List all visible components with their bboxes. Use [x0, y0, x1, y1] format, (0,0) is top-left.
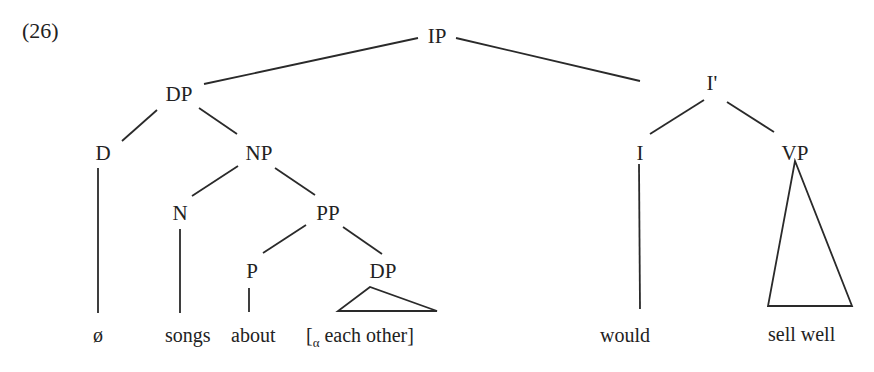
- node-ip: IP: [428, 24, 447, 48]
- node-p: P: [246, 259, 258, 283]
- node-pp: PP: [316, 201, 339, 225]
- node-vp: VP: [782, 141, 809, 165]
- node-i-bar: I': [707, 71, 718, 95]
- branch-pp-p: [263, 225, 306, 253]
- terminal-each-other: [α each other]: [306, 323, 414, 355]
- node-dp-object: DP: [370, 259, 397, 283]
- tree-branches: [0, 0, 874, 372]
- terminal-sell-well: sell well: [768, 322, 835, 346]
- branch-np-n: [192, 166, 238, 196]
- branch-ibar-vp: [727, 102, 774, 132]
- node-n: N: [172, 201, 187, 225]
- terminal-null-determiner: ø: [93, 323, 103, 347]
- branch-ip-ibar: [456, 38, 640, 81]
- branch-pp-dp: [343, 227, 382, 254]
- branch-i-terminal: [639, 164, 640, 309]
- branch-np-pp: [275, 168, 315, 195]
- each-other-text: each other]: [324, 324, 413, 346]
- dp-triangle: [338, 287, 437, 311]
- node-i: I: [637, 141, 644, 165]
- branch-dp-np: [199, 108, 237, 134]
- node-np: NP: [246, 141, 273, 165]
- terminal-would: would: [600, 323, 650, 347]
- branch-ip-dp: [204, 38, 418, 84]
- alpha-subscript: α: [313, 335, 320, 350]
- node-dp-subject: DP: [166, 82, 193, 106]
- terminal-songs: songs: [165, 323, 211, 347]
- terminal-about: about: [231, 323, 275, 347]
- branch-ibar-i: [650, 100, 704, 134]
- bracket-open: [: [306, 324, 313, 346]
- vp-triangle: [768, 161, 852, 306]
- node-d: D: [95, 141, 110, 165]
- branch-dp-d: [122, 110, 157, 141]
